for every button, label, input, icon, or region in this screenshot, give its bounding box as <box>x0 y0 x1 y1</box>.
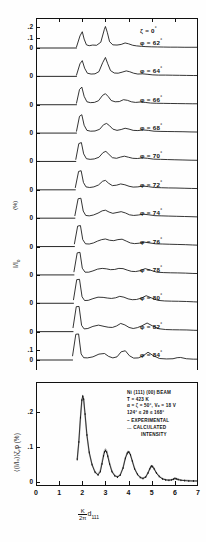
upper-y-axis-title: I/Io <box>12 259 21 268</box>
upper-y-tick <box>36 48 40 49</box>
x-axis-tick-label: 0 <box>30 489 42 496</box>
x-axis-tick-label: 4 <box>123 489 135 496</box>
x-tick <box>152 481 153 486</box>
legend-swatch-solid: – <box>127 418 130 423</box>
x-axis-tick-label: 5 <box>146 489 158 496</box>
legend-label-calculated: CALCULATED <box>133 425 166 430</box>
lower-y-tick <box>36 447 40 448</box>
curve-label-phi-72: φ = 72° <box>140 180 162 188</box>
legend-label-experimental: EXPERIMENTAL <box>131 418 169 423</box>
legend-entry-experimental: – EXPERIMENTAL <box>127 418 176 425</box>
legend-swatch-dashed: … <box>127 425 132 430</box>
lower-y-tick <box>36 482 40 483</box>
x-axis-tick-label: 6 <box>169 489 181 496</box>
x-tick <box>105 481 106 486</box>
upper-y-tick <box>36 133 40 134</box>
annotation-line-0: Ni (111) (00) BEAM <box>127 390 176 397</box>
upper-y-tick-label: 0 <box>17 101 33 108</box>
upper-y-tick <box>36 218 40 219</box>
upper-y-tick <box>36 27 40 28</box>
x-axis-tick-label: 2 <box>76 489 88 496</box>
upper-y-tick <box>36 350 40 351</box>
x-tick <box>129 481 130 486</box>
upper-y-tick <box>36 38 40 39</box>
curve-label-phi-64: φ = 64° <box>140 66 162 74</box>
annotation-line-1: T = 423 K <box>127 397 176 404</box>
curve-label-phi-84: φ = 84° <box>140 350 162 358</box>
upper-y-axis-units: (%) <box>12 201 18 210</box>
x-tick <box>175 481 176 486</box>
upper-y-tick <box>36 332 40 333</box>
x-axis-tick-label: 7 <box>192 489 204 496</box>
upper-y-tick-label: 0 <box>17 129 33 136</box>
lower-y-tick <box>36 412 40 413</box>
curve-label-phi-62: φ = 62° <box>140 38 162 46</box>
curve-label-phi-80: φ = 80° <box>140 293 162 301</box>
upper-intensity-panel <box>36 18 198 370</box>
upper-y-tick-label: 0 <box>17 356 33 363</box>
lower-y-tick-label: .2 <box>17 408 33 415</box>
upper-y-tick-label: 0 <box>17 328 33 335</box>
upper-y-tick-label: .1 <box>17 34 33 41</box>
x-axis-title: K 2π d111 <box>78 508 99 521</box>
upper-y-tick <box>36 161 40 162</box>
x-axis-tick-label: 3 <box>99 489 111 496</box>
upper-y-tick-label: .2 <box>17 23 33 30</box>
upper-y-tick <box>36 360 40 361</box>
upper-top-tick <box>105 18 106 22</box>
upper-y-tick-label: 0 <box>17 271 33 278</box>
upper-top-tick <box>152 18 153 22</box>
legend-entry-calculated: … CALCULATED <box>127 425 176 432</box>
curve-label-phi-68: φ = 68° <box>140 123 162 131</box>
upper-y-tick-label: 0 <box>17 157 33 164</box>
upper-top-tick <box>82 18 83 22</box>
legend-entry-intensity: INTENSITY <box>127 432 176 439</box>
lower-y-tick-label: 0 <box>17 478 33 485</box>
upper-top-tick <box>175 18 176 22</box>
curve-label-phi-78: φ = 78° <box>140 265 162 273</box>
conditions-annotation: Ni (111) (00) BEAM T = 423 K α = ζ = 50°… <box>127 390 176 438</box>
upper-traces-svg <box>36 18 198 370</box>
upper-top-tick <box>59 18 60 22</box>
upper-y-tick-label: 0 <box>17 299 33 306</box>
upper-y-tick-label: 0 <box>17 214 33 221</box>
x-tick <box>82 481 83 486</box>
curve-label-phi-82: φ = 82° <box>140 322 162 330</box>
upper-top-tick <box>129 18 130 22</box>
upper-y-tick-label: 0 <box>17 44 33 51</box>
x-axis-tick-label: 1 <box>53 489 65 496</box>
curve-label-phi-66: φ = 66° <box>140 95 162 103</box>
upper-y-tick-label: .1 <box>17 346 33 353</box>
lower-y-axis-title: ⟨⟨I/Iₒ⟩⟩ζ,φ (%) <box>13 433 21 472</box>
legend-label-intensity: INTENSITY <box>141 432 167 437</box>
curve-label-phi-70: φ = 70° <box>140 151 162 159</box>
upper-y-tick <box>36 247 40 248</box>
upper-y-tick <box>36 190 40 191</box>
x-tick <box>59 481 60 486</box>
x-axis-d-index: 111 <box>91 514 99 520</box>
annotation-line-3: 124° ≤ 2θ ≤ 168° <box>127 410 176 417</box>
upper-y-tick-label: 0 <box>17 72 33 79</box>
upper-y-tick-label: 0 <box>17 186 33 193</box>
curve-label-phi-74: φ = 74° <box>140 208 162 216</box>
leed-intensity-figure: .2.1000000000000.1 I/Io (%) φ = 62°φ = 6… <box>0 0 206 542</box>
curve-label-phi-76: φ = 76° <box>140 237 162 245</box>
upper-y-tick-label: 0 <box>17 243 33 250</box>
upper-y-tick <box>36 105 40 106</box>
annotation-line-2: α = ζ = 50°, Vₒ = 18 V <box>127 403 176 410</box>
chi-angle-label: ζ = 0° <box>140 26 157 34</box>
upper-y-tick <box>36 303 40 304</box>
upper-y-tick <box>36 275 40 276</box>
upper-y-tick <box>36 76 40 77</box>
